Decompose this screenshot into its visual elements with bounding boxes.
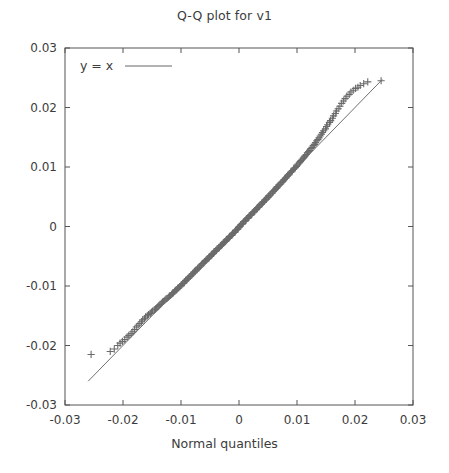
x-axis-label: Normal quantiles	[0, 436, 449, 451]
x-tick-label: 0.02	[342, 413, 369, 427]
y-tick-label: -0.01	[26, 279, 57, 293]
y-tick-label: 0	[49, 220, 57, 234]
plot-canvas	[0, 0, 449, 473]
y-tick-label: 0.03	[30, 41, 57, 55]
x-tick-label: 0	[235, 413, 243, 427]
legend-entry-label: y = x	[80, 58, 113, 73]
x-tick-label: 0.01	[284, 413, 311, 427]
y-tick-label: -0.03	[26, 398, 57, 412]
x-tick-label: -0.02	[107, 413, 138, 427]
x-tick-label: -0.03	[49, 413, 80, 427]
scatter-points	[88, 77, 385, 358]
x-tick-label: 0.03	[400, 413, 427, 427]
qq-plot-figure: Q-Q plot for v1 y = x 0.030.020.010-0.01…	[0, 0, 449, 473]
x-tick-label: -0.01	[165, 413, 196, 427]
y-tick-label: 0.01	[30, 160, 57, 174]
y-tick-label: -0.02	[26, 339, 57, 353]
y-tick-label: 0.02	[30, 101, 57, 115]
